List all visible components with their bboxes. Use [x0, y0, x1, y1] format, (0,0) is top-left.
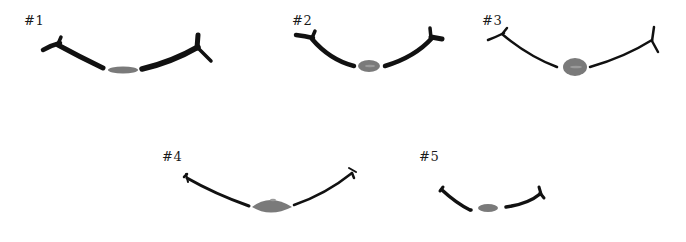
figure-5-spot [478, 204, 498, 212]
figure-canvas: #1 #2 #3 #4 #5 [0, 0, 686, 242]
figure-4 [184, 168, 356, 213]
figure-1 [43, 35, 211, 74]
figure-1-spot [108, 67, 138, 74]
figures-drawing [0, 0, 686, 242]
figure-5 [440, 187, 544, 212]
figure-2 [296, 28, 442, 72]
figure-4-spot [252, 200, 292, 213]
figure-3 [488, 27, 658, 76]
